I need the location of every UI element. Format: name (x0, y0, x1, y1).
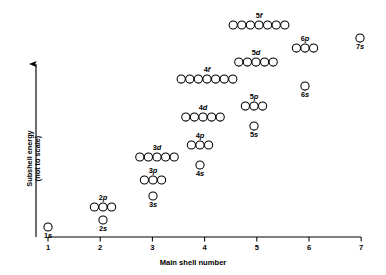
orbital-label-3p: 3p (149, 166, 158, 175)
orbital-group-6s: 6s (301, 82, 309, 99)
orbital-group-5s: 5s (250, 122, 258, 139)
orbital-box-5f (229, 21, 237, 29)
orbital-box-5d (235, 58, 243, 66)
orbital-group-6p: 6p (292, 34, 317, 52)
orbital-group-4p: 4p (187, 131, 212, 149)
orbital-box-3d (136, 153, 144, 161)
y-axis-title-line2: (not to scale) (33, 135, 42, 181)
orbital-group-3s: 3s (149, 192, 157, 209)
orbital-box-2p (90, 203, 98, 211)
orbital-box-5s (250, 122, 258, 130)
x-tick-label-7: 7 (359, 243, 363, 252)
x-tick-label-4: 4 (202, 243, 207, 252)
orbital-box-5f (264, 21, 272, 29)
orbital-label-7s: 7s (356, 42, 364, 51)
orbital-box-3d (170, 153, 178, 161)
orbital-box-5f (255, 21, 263, 29)
orbital-box-4p (205, 141, 213, 149)
orbital-box-2s (99, 216, 107, 224)
orbital-box-4f (194, 75, 202, 83)
orbital-box-3p (158, 176, 166, 184)
orbital-box-7s (356, 34, 364, 42)
orbital-label-4s: 4s (196, 169, 204, 178)
x-tick-label-1: 1 (46, 243, 51, 252)
x-tick-label-2: 2 (98, 243, 102, 252)
orbital-box-5f (281, 21, 289, 29)
orbital-box-6s (301, 82, 309, 90)
orbital-box-4d (190, 113, 198, 121)
orbital-box-5p (241, 102, 249, 110)
x-tick-label-6: 6 (307, 243, 311, 252)
y-axis: Subshell energy (not to scale) (25, 64, 42, 237)
chart-canvas: Subshell energy (not to scale) 1234567 M… (0, 0, 386, 275)
orbital-box-6p (292, 44, 300, 52)
orbital-box-1s (44, 223, 52, 231)
x-tick-label-5: 5 (255, 243, 260, 252)
x-tick-label-3: 3 (150, 243, 154, 252)
x-axis-title: Main shell number (160, 258, 227, 267)
orbital-box-5d (269, 58, 277, 66)
orbital-box-5d (243, 58, 251, 66)
orbital-label-4p: 4p (196, 131, 205, 140)
orbital-group-5p: 5p (241, 92, 266, 110)
orbital-box-4f (220, 75, 228, 83)
orbital-box-5d (261, 58, 269, 66)
orbital-label-2p: 2p (99, 193, 108, 202)
orbital-box-4f (212, 75, 220, 83)
orbital-box-4p (187, 141, 195, 149)
orbital-box-4d (199, 113, 207, 121)
y-axis-title: Subshell energy (not to scale) (25, 129, 42, 186)
orbital-box-4f (177, 75, 185, 83)
x-axis-ticks: 1234567 (46, 237, 363, 252)
orbital-group-5d: 5d (235, 48, 278, 66)
orbital-group-3d: 3d (136, 143, 179, 161)
orbital-box-3p (149, 176, 157, 184)
orbital-box-4d (182, 113, 190, 121)
orbital-energy-diagram: Subshell energy (not to scale) 1234567 M… (0, 0, 386, 275)
orbital-box-5f (272, 21, 280, 29)
orbital-box-4d (216, 113, 224, 121)
orbital-box-5p (250, 102, 258, 110)
orbital-box-3d (162, 153, 170, 161)
orbital-group-2s: 2s (99, 216, 107, 233)
orbital-group-4s: 4s (196, 161, 204, 178)
orbital-group-4f: 4f (177, 65, 237, 83)
orbital-box-5d (252, 58, 260, 66)
orbital-box-4s (196, 161, 204, 169)
orbital-box-6p (301, 44, 309, 52)
orbital-box-4d (208, 113, 216, 121)
orbital-group-5f: 5f (229, 11, 289, 29)
orbital-box-4p (196, 141, 204, 149)
orbital-group-4d: 4d (182, 103, 225, 121)
orbital-group-3p: 3p (140, 166, 165, 184)
orbital-group-2p: 2p (90, 193, 115, 211)
orbital-group-7s: 7s (356, 34, 364, 51)
orbital-label-3d: 3d (153, 143, 162, 152)
orbital-label-6p: 6p (301, 34, 310, 43)
orbital-label-5d: 5d (252, 48, 261, 57)
orbital-label-3s: 3s (149, 200, 157, 209)
orbital-label-6s: 6s (301, 90, 309, 99)
orbital-box-2p (99, 203, 107, 211)
orbital-label-5f: 5f (256, 11, 264, 20)
orbital-box-3d (153, 153, 161, 161)
orbital-box-5f (238, 21, 246, 29)
orbital-label-2s: 2s (99, 224, 107, 233)
orbital-box-6p (310, 44, 318, 52)
orbital-group-1s: 1s (44, 223, 52, 240)
orbital-label-4f: 4f (204, 65, 212, 74)
orbital-label-5s: 5s (250, 130, 258, 139)
orbital-box-3p (140, 176, 148, 184)
orbital-label-4d: 4d (199, 103, 208, 112)
orbital-box-2p (108, 203, 116, 211)
x-axis: 1234567 Main shell number (46, 237, 363, 267)
orbital-box-4f (229, 75, 237, 83)
orbital-box-3s (149, 192, 157, 200)
orbital-groups: 1s2s2p3s3p3d4s4p4d4f5s5p5d5f6s6p7s (44, 11, 364, 241)
orbital-box-4f (186, 75, 194, 83)
orbital-label-5p: 5p (250, 92, 259, 101)
orbital-label-1s: 1s (44, 231, 52, 240)
orbital-box-3d (144, 153, 152, 161)
orbital-box-5f (246, 21, 254, 29)
orbital-box-5p (259, 102, 267, 110)
